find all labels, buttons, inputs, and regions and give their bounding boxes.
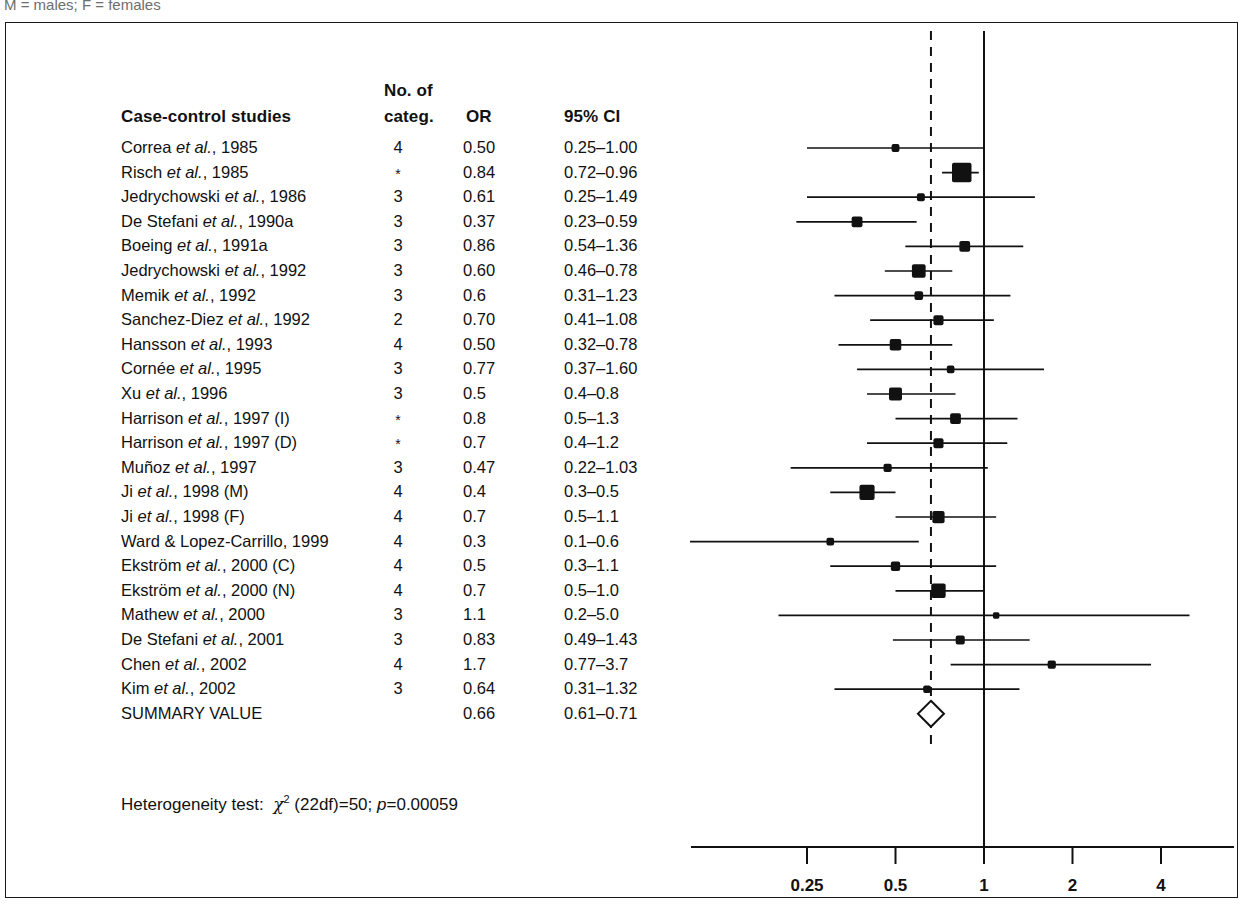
row-or-value: 0.7 — [463, 507, 486, 526]
row-categ-value: * — [385, 163, 411, 185]
row-study-label: Ji et al., 1998 (M) — [121, 482, 248, 501]
row-ci-value: 0.72–0.96 — [564, 163, 637, 182]
row-categ-value: 3 — [385, 261, 411, 280]
point-estimate-marker — [917, 193, 925, 201]
row-or-value: 0.64 — [463, 679, 495, 698]
row-study-label: Mathew et al., 2000 — [121, 605, 265, 624]
row-study-label: Xu et al., 1996 — [121, 384, 227, 403]
row-study-label: Risch et al., 1985 — [121, 163, 249, 182]
point-estimate-marker — [914, 291, 923, 300]
table-row: Ji et al., 1998 (M)40.40.3–0.5 — [6, 482, 686, 507]
x-axis-tick-label: 0.5 — [884, 876, 908, 895]
row-or-value: 0.60 — [463, 261, 495, 280]
row-or-value: 1.1 — [463, 605, 486, 624]
row-ci-value: 0.5–1.0 — [564, 581, 619, 600]
row-study-label: De Stefani et al., 2001 — [121, 630, 284, 649]
row-ci-value: 0.1–0.6 — [564, 532, 619, 551]
row-study-label: Memik et al., 1992 — [121, 286, 256, 305]
et-al: et al. — [228, 310, 264, 328]
forest-plot-panel: Case-control studies No. of categ. OR 95… — [5, 22, 1238, 898]
et-al: et al. — [188, 433, 224, 451]
row-or-value: 0.83 — [463, 630, 495, 649]
row-or-value: 0.7 — [463, 581, 486, 600]
row-categ-value: 4 — [385, 532, 411, 551]
row-categ-value: 3 — [385, 384, 411, 403]
row-study-label: Jedrychowski et al., 1986 — [121, 187, 306, 206]
point-estimate-marker — [956, 635, 965, 644]
point-estimate-marker — [931, 584, 945, 598]
row-or-value: 0.70 — [463, 310, 495, 329]
row-study-label: Jedrychowski et al., 1992 — [121, 261, 306, 280]
row-or-value: 0.5 — [463, 384, 486, 403]
table-row: Ward & Lopez-Carrillo, 199940.30.1–0.6 — [6, 532, 686, 557]
et-al: et al. — [165, 655, 201, 673]
row-categ-value: 4 — [385, 655, 411, 674]
point-estimate-marker — [952, 163, 972, 183]
row-ci-value: 0.4–1.2 — [564, 433, 619, 452]
row-study-label: Hansson et al., 1993 — [121, 335, 272, 354]
point-estimate-marker — [923, 685, 931, 693]
row-ci-value: 0.22–1.03 — [564, 458, 637, 477]
study-table: Case-control studies No. of categ. OR 95… — [6, 23, 686, 897]
et-al: et al. — [191, 335, 227, 353]
row-or-value: 0.7 — [463, 433, 486, 452]
x-axis-tick-label: 1 — [979, 876, 988, 895]
row-categ-value: 3 — [385, 605, 411, 624]
row-or-value: 0.50 — [463, 138, 495, 157]
row-or-value: 0.66 — [463, 704, 495, 723]
table-row: Muñoz et al., 199730.470.22–1.03 — [6, 458, 686, 483]
caption-fragment: M = males; F = females — [4, 0, 404, 16]
row-ci-value: 0.32–0.78 — [564, 335, 637, 354]
row-ci-value: 0.46–0.78 — [564, 261, 637, 280]
row-study-label: Boeing et al., 1991a — [121, 236, 268, 255]
x-axis-tick-label: 4 — [1156, 876, 1166, 895]
row-or-value: 0.47 — [463, 458, 495, 477]
table-row: Risch et al., 1985*0.840.72–0.96 — [6, 163, 686, 188]
row-ci-value: 0.31–1.23 — [564, 286, 637, 305]
heterogeneity-df: (22df)=50; — [294, 795, 372, 814]
p-value: =0.00059 — [387, 795, 458, 814]
row-categ-value: 3 — [385, 458, 411, 477]
row-ci-value: 0.5–1.3 — [564, 409, 619, 428]
table-row: Harrison et al., 1997 (D)*0.70.4–1.2 — [6, 433, 686, 458]
et-al: et al. — [225, 261, 261, 279]
et-al: et al. — [138, 507, 174, 525]
table-row: Jedrychowski et al., 199230.600.46–0.78 — [6, 261, 686, 286]
et-al: et al. — [154, 679, 190, 697]
row-categ-value: 3 — [385, 286, 411, 305]
row-or-value: 0.77 — [463, 359, 495, 378]
row-categ-value: 4 — [385, 556, 411, 575]
row-study-label: Harrison et al., 1997 (I) — [121, 409, 290, 428]
row-ci-value: 0.77–3.7 — [564, 655, 628, 674]
figure-root: M = males; F = females Case-control stud… — [0, 0, 1243, 920]
row-ci-value: 0.61–0.71 — [564, 704, 637, 723]
table-row: Jedrychowski et al., 198630.610.25–1.49 — [6, 187, 686, 212]
table-row: Boeing et al., 1991a30.860.54–1.36 — [6, 236, 686, 261]
table-row: Correa et al., 198540.500.25–1.00 — [6, 138, 686, 163]
row-ci-value: 0.37–1.60 — [564, 359, 637, 378]
row-study-label: Ekström et al., 2000 (N) — [121, 581, 295, 600]
row-ci-value: 0.25–1.00 — [564, 138, 637, 157]
et-al: et al. — [180, 359, 216, 377]
header-95-ci: 95% CI — [564, 107, 620, 127]
row-study-label: Sanchez-Diez et al., 1992 — [121, 310, 310, 329]
point-estimate-marker — [859, 485, 874, 500]
table-row: Cornée et al., 199530.770.37–1.60 — [6, 359, 686, 384]
point-estimate-marker — [1048, 661, 1056, 669]
row-or-value: 0.3 — [463, 532, 486, 551]
row-categ-value: 3 — [385, 187, 411, 206]
row-study-label: Cornée et al., 1995 — [121, 359, 261, 378]
row-or-value: 0.8 — [463, 409, 486, 428]
row-ci-value: 0.2–5.0 — [564, 605, 619, 624]
point-estimate-marker — [884, 464, 892, 472]
et-al: et al. — [177, 236, 213, 254]
table-row: Mathew et al., 200031.10.2–5.0 — [6, 605, 686, 630]
point-estimate-marker — [950, 413, 961, 424]
et-al: et al. — [186, 581, 222, 599]
row-study-label: Ji et al., 1998 (F) — [121, 507, 245, 526]
row-or-value: 0.61 — [463, 187, 495, 206]
point-estimate-marker — [892, 144, 900, 152]
row-or-value: 0.50 — [463, 335, 495, 354]
table-row: SUMMARY VALUE0.660.61–0.71 — [6, 704, 686, 729]
row-categ-value: 4 — [385, 507, 411, 526]
